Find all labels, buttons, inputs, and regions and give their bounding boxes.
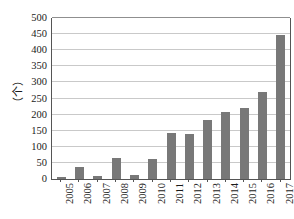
bar-2014 [221,112,230,179]
y-axis-tick-label: 200 [20,109,47,120]
x-axis-tick [243,179,244,182]
y-axis-tick-label: 50 [20,158,47,169]
bar-2017 [276,35,285,179]
x-axis-tick-label-2007: 2007 [102,183,113,219]
bar-slot [144,18,162,179]
bar-slot [180,18,198,179]
bar-slot [89,18,107,179]
bar-slot [70,18,88,179]
bar-slot [217,18,235,179]
bar-chart: （个） 050100150200250300350400450500 20052… [0,0,294,219]
bars-layer [52,18,290,179]
bar-2011 [167,133,176,179]
x-axis-tick [97,179,98,182]
x-axis-tick [170,179,171,182]
x-axis-tick [207,179,208,182]
bar-slot [253,18,271,179]
bar-2010 [148,159,157,179]
x-axis-tick-label-2015: 2015 [248,183,259,219]
bar-slot [107,18,125,179]
x-axis-tick [188,179,189,182]
y-axis-tick-label: 100 [20,142,47,153]
x-axis-tick [133,179,134,182]
x-axis-tick-label-2008: 2008 [120,183,131,219]
x-axis-tick [225,179,226,182]
y-axis-tick-labels: 050100150200250300350400450500 [20,12,47,179]
y-axis-tick-label: 350 [20,61,47,72]
x-axis-tick [115,179,116,182]
bar-slot [125,18,143,179]
bar-2016 [258,92,267,179]
plot-area [51,18,291,180]
y-axis-tick-label: 500 [20,13,47,24]
bar-2015 [240,108,249,179]
x-axis-tick-label-2017: 2017 [285,183,294,219]
bar-slot [235,18,253,179]
bar-2008 [112,158,121,179]
y-axis-tick-label: 450 [20,29,47,40]
x-axis-tick [60,179,61,182]
bar-slot [272,18,290,179]
x-axis-tick-label-2006: 2006 [83,183,94,219]
x-axis-tick-label-2009: 2009 [138,183,149,219]
x-axis-tick [78,179,79,182]
x-axis-tick [152,179,153,182]
x-axis-tick-label-2010: 2010 [157,183,168,219]
y-axis-tick-label: 250 [20,93,47,104]
x-axis-tick-label-2012: 2012 [193,183,204,219]
y-axis-tick-label: 150 [20,125,47,136]
y-axis-tick-label: 300 [20,77,47,88]
y-axis-tick-label: 0 [20,174,47,185]
x-axis-tick-label-2005: 2005 [65,183,76,219]
x-axis-tick-label-2013: 2013 [212,183,223,219]
x-axis-tick [280,179,281,182]
bar-2012 [185,134,194,179]
bar-slot [52,18,70,179]
bar-2013 [203,120,212,179]
x-axis-tick-labels: 2005200620072008200920102011201220132014… [51,183,291,219]
bar-slot [162,18,180,179]
y-axis-tick-label: 400 [20,45,47,56]
x-axis-tick-label-2014: 2014 [230,183,241,219]
bar-2006 [75,167,84,179]
x-axis-tick-label-2016: 2016 [266,183,277,219]
y-axis-title: （个） [2,86,20,97]
bar-slot [199,18,217,179]
x-axis-tick [261,179,262,182]
x-axis-tick-label-2011: 2011 [175,183,186,219]
